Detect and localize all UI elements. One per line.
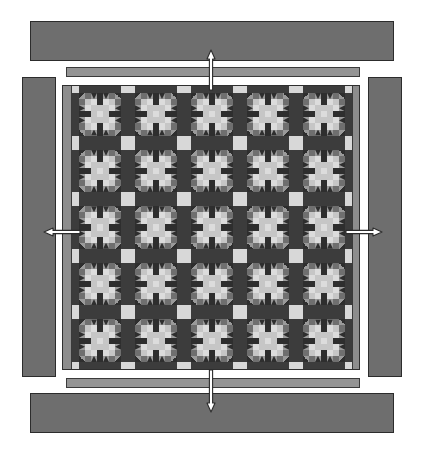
- cornerstone: [121, 312, 128, 319]
- cornerstone: [289, 312, 296, 319]
- cornerstone: [177, 256, 184, 263]
- star-block: [79, 263, 121, 306]
- cornerstone: [289, 86, 296, 93]
- quilt-block: [240, 256, 296, 313]
- star-block: [191, 150, 233, 193]
- cornerstone: [72, 256, 79, 263]
- quilt-block: [240, 312, 296, 369]
- cornerstone: [184, 143, 191, 150]
- cornerstone: [296, 86, 303, 93]
- quilt-block: [184, 256, 240, 313]
- cornerstone: [240, 86, 247, 93]
- cornerstone: [72, 136, 79, 143]
- cornerstone: [72, 312, 79, 319]
- block-patch: [227, 299, 233, 305]
- quilt-block: [184, 143, 240, 200]
- cornerstone: [233, 192, 240, 199]
- block-patch: [339, 130, 345, 136]
- cornerstone: [121, 143, 128, 150]
- block-patch: [171, 130, 177, 136]
- cornerstone: [177, 192, 184, 199]
- cornerstone: [121, 136, 128, 143]
- cornerstone: [345, 199, 352, 206]
- cornerstone: [128, 312, 135, 319]
- cornerstone: [177, 86, 184, 93]
- block-patch: [171, 356, 177, 362]
- cornerstone: [184, 249, 191, 256]
- block-patch: [115, 299, 121, 305]
- block-patch: [115, 130, 121, 136]
- star-block: [247, 150, 289, 193]
- quilt-block: [72, 312, 128, 369]
- cornerstone: [184, 312, 191, 319]
- cornerstone: [233, 256, 240, 263]
- cornerstone: [184, 256, 191, 263]
- cornerstone: [345, 143, 352, 150]
- cornerstone: [289, 192, 296, 199]
- cornerstone: [296, 199, 303, 206]
- star-block: [247, 206, 289, 249]
- quilt-block: [296, 312, 352, 369]
- cornerstone: [177, 305, 184, 312]
- cornerstone: [177, 143, 184, 150]
- cornerstone: [128, 199, 135, 206]
- cornerstone: [289, 143, 296, 150]
- quilt-block: [128, 312, 184, 369]
- cornerstone: [233, 305, 240, 312]
- cornerstone: [128, 86, 135, 93]
- quilt-block: [128, 143, 184, 200]
- quilt-block: [296, 86, 352, 143]
- cornerstone: [128, 305, 135, 312]
- cornerstone: [184, 86, 191, 93]
- star-block: [303, 206, 345, 249]
- quilt-block: [184, 199, 240, 256]
- cornerstone: [233, 143, 240, 150]
- cornerstone: [121, 199, 128, 206]
- star-block: [303, 93, 345, 136]
- star-block: [191, 93, 233, 136]
- cornerstone: [240, 362, 247, 369]
- cornerstone: [345, 86, 352, 93]
- quilt-diagram-canvas: [0, 0, 423, 452]
- cornerstone: [289, 199, 296, 206]
- block-patch: [339, 186, 345, 192]
- cornerstone: [345, 305, 352, 312]
- block-patch: [227, 356, 233, 362]
- cornerstone: [184, 192, 191, 199]
- cornerstone: [289, 362, 296, 369]
- cornerstone: [72, 362, 79, 369]
- star-block: [303, 319, 345, 362]
- cornerstone: [128, 249, 135, 256]
- star-block: [135, 206, 177, 249]
- cornerstone: [345, 192, 352, 199]
- block-patch: [283, 130, 289, 136]
- star-block: [79, 93, 121, 136]
- cornerstone: [121, 305, 128, 312]
- block-patch: [227, 243, 233, 249]
- cornerstone: [296, 143, 303, 150]
- star-block: [191, 206, 233, 249]
- cornerstone: [240, 136, 247, 143]
- star-block: [247, 263, 289, 306]
- cornerstone: [121, 256, 128, 263]
- block-patch: [283, 243, 289, 249]
- cornerstone: [240, 256, 247, 263]
- block-patch: [339, 243, 345, 249]
- quilt-block: [296, 256, 352, 313]
- cornerstone: [296, 256, 303, 263]
- block-patch: [339, 299, 345, 305]
- cornerstone: [345, 362, 352, 369]
- cornerstone: [233, 312, 240, 319]
- cornerstone: [289, 256, 296, 263]
- block-grid: [72, 86, 352, 369]
- block-patch: [171, 186, 177, 192]
- block-patch: [283, 299, 289, 305]
- cornerstone: [177, 312, 184, 319]
- cornerstone: [184, 199, 191, 206]
- block-patch: [227, 130, 233, 136]
- quilt-block: [296, 143, 352, 200]
- cornerstone: [177, 249, 184, 256]
- quilt-block: [128, 199, 184, 256]
- cornerstone: [233, 199, 240, 206]
- cornerstone: [289, 136, 296, 143]
